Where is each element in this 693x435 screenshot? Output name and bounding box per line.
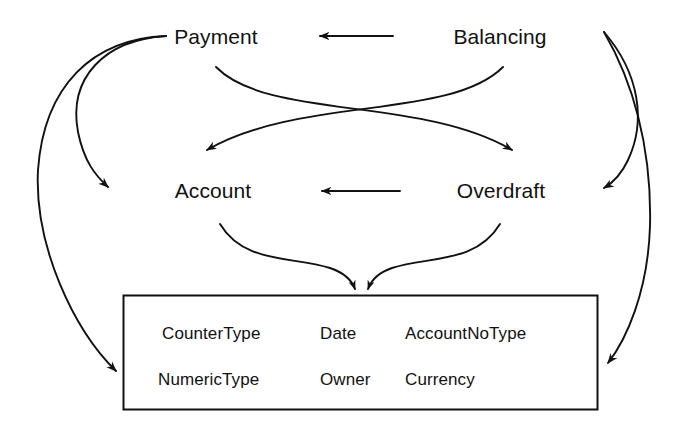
edge-balancing-to-types-box (604, 32, 650, 363)
field-account-no-type: AccountNoType (405, 324, 526, 344)
types-box-outline (124, 296, 598, 410)
diagram-canvas: Payment Balancing Account Overdraft Coun… (0, 0, 693, 435)
node-balancing[interactable]: Balancing (453, 25, 546, 49)
field-numeric-type: NumericType (158, 370, 259, 390)
edge-overdraft-to-types-box (368, 224, 500, 289)
node-payment[interactable]: Payment (174, 25, 258, 49)
field-counter-type: CounterType (162, 324, 260, 344)
edge-balancing-to-overdraft (604, 32, 638, 188)
field-date: Date (320, 324, 356, 344)
node-overdraft[interactable]: Overdraft (457, 179, 545, 203)
field-owner: Owner (320, 370, 371, 390)
edge-payment-to-account (76, 36, 166, 187)
edge-account-to-types-box (220, 224, 355, 289)
node-account[interactable]: Account (175, 179, 252, 203)
field-currency: Currency (405, 370, 475, 390)
edge-payment-to-types-box (38, 36, 166, 371)
